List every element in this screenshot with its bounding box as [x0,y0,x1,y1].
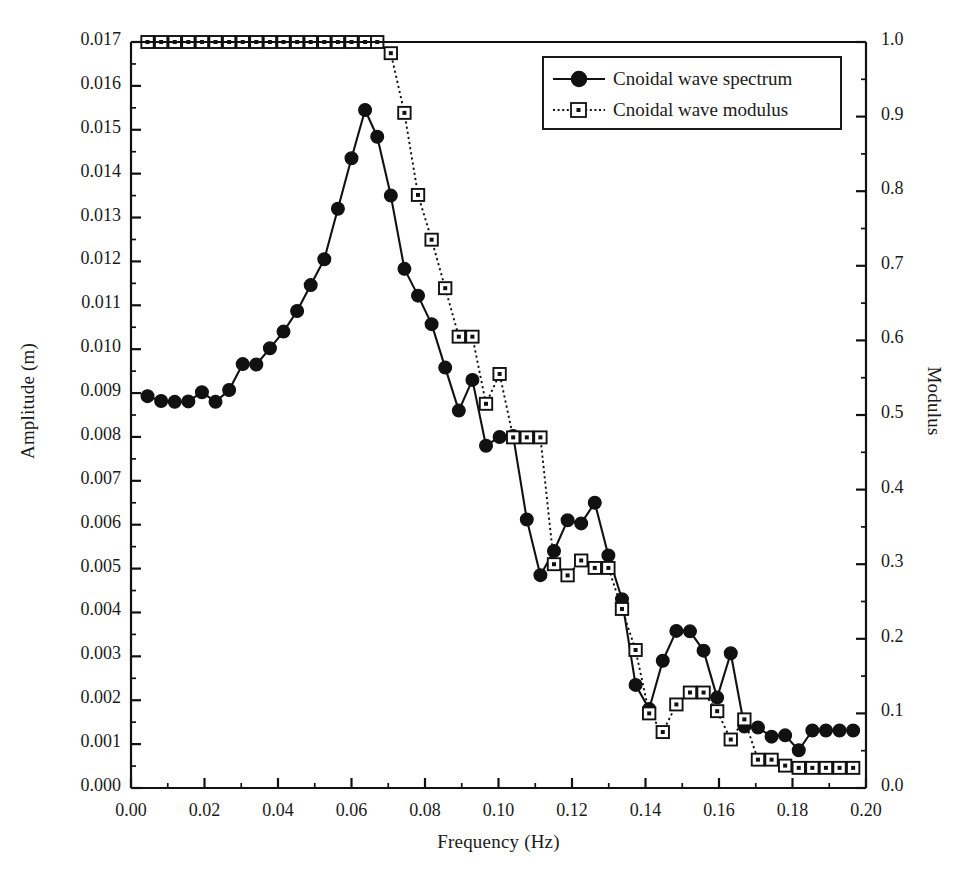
data-point-spectrum [277,325,290,338]
plot-frame [131,42,866,788]
data-point-spectrum [452,404,465,417]
y-tick-label: 0.005 [45,556,121,577]
data-point-spectrum [534,569,547,582]
data-point-spectrum [425,318,438,331]
data-point-modulus-center [824,766,828,770]
y-tick-label: 0.000 [45,775,121,796]
legend-marker-open-square [552,100,606,120]
data-point-modulus-center [552,562,556,566]
y-tick-label: 0.006 [45,512,121,533]
data-point-spectrum [250,358,263,371]
data-point-modulus-center [729,738,733,742]
y-tick-label: 0.002 [45,687,121,708]
data-point-spectrum [236,358,249,371]
data-point-spectrum [520,513,533,526]
data-point-spectrum [711,691,724,704]
data-point-spectrum [656,654,669,667]
y2-tick-label: 1.0 [881,29,931,50]
x-tick-label: 0.12 [538,800,606,821]
chart-legend: Cnoidal wave spectrum Cnoidal wave modul… [542,56,842,130]
data-point-modulus-center [525,435,529,439]
x-tick-label: 0.06 [318,800,386,821]
data-point-modulus-center [688,691,692,695]
y-tick-label: 0.009 [45,380,121,401]
x-axis-title: Frequency (Hz) [131,831,866,853]
legend-marker-filled-circle [552,69,606,89]
legend-item-spectrum: Cnoidal wave spectrum [552,63,832,94]
y-tick-label: 0.003 [45,643,121,664]
y-tick-label: 0.014 [45,161,121,182]
data-point-spectrum [304,279,317,292]
x-tick-label: 0.18 [759,800,827,821]
data-point-spectrum [412,289,425,302]
legend-label-spectrum: Cnoidal wave spectrum [613,68,792,90]
x-tick-label: 0.04 [244,800,312,821]
y2-tick-label: 0.7 [881,253,931,274]
data-point-spectrum [264,342,277,355]
x-tick-label: 0.20 [832,800,900,821]
data-point-modulus-center [430,238,434,242]
data-point-spectrum [480,439,493,452]
y2-tick-label: 0.8 [881,178,931,199]
data-point-spectrum [318,253,331,266]
x-tick-label: 0.14 [612,800,680,821]
data-point-spectrum [384,189,397,202]
x-tick-label: 0.02 [171,800,239,821]
data-point-spectrum [629,678,642,691]
y2-tick-label: 0.3 [881,551,931,572]
data-point-spectrum [345,152,358,165]
y-tick-label: 0.015 [45,117,121,138]
data-point-modulus-center [402,111,406,115]
data-point-spectrum [168,395,181,408]
data-point-spectrum [155,395,168,408]
data-point-spectrum [792,744,805,757]
legend-label-modulus: Cnoidal wave modulus [613,99,788,121]
legend-item-modulus: Cnoidal wave modulus [552,94,832,125]
data-point-spectrum [182,395,195,408]
data-point-spectrum [820,724,833,737]
data-point-modulus-center [498,372,502,376]
y2-tick-label: 0.2 [881,626,931,647]
data-point-modulus-center [770,758,774,762]
data-point-spectrum [196,386,209,399]
plot-background [131,42,866,788]
data-point-spectrum [684,625,697,638]
data-point-modulus-center [416,193,420,197]
data-point-modulus-center [593,566,597,570]
data-point-modulus-center [756,758,760,762]
data-point-spectrum [670,625,683,638]
data-point-modulus-center [457,335,461,339]
y2-tick-label: 0.4 [881,477,931,498]
y-tick-label: 0.007 [45,468,121,489]
x-tick-label: 0.00 [97,800,165,821]
data-point-spectrum [561,514,574,527]
data-point-spectrum [806,724,819,737]
data-point-modulus-center [797,766,801,770]
y-tick-label: 0.011 [45,292,121,313]
data-point-modulus-center [742,717,746,721]
y2-tick-label: 0.5 [881,402,931,423]
data-point-modulus-center [783,764,787,768]
data-point-modulus-center [389,51,393,55]
data-point-modulus-center [484,402,488,406]
data-point-spectrum [765,730,778,743]
data-point-spectrum [291,305,304,318]
y2-tick-label: 0.0 [881,775,931,796]
data-point-spectrum [724,647,737,660]
data-point-modulus-center [810,766,814,770]
data-point-modulus-center [661,730,665,734]
y2-tick-label: 0.1 [881,700,931,721]
data-point-spectrum [602,549,615,562]
data-point-spectrum [833,724,846,737]
y2-tick-label: 0.6 [881,327,931,348]
data-point-spectrum [359,104,372,117]
y-tick-label: 0.004 [45,599,121,620]
data-point-spectrum [697,644,710,657]
y-axis-title: Amplitude (m) [17,321,39,481]
data-point-spectrum [466,373,479,386]
y-tick-label: 0.016 [45,73,121,94]
data-point-spectrum [439,361,452,374]
y-tick-label: 0.008 [45,424,121,445]
data-point-spectrum [493,431,506,444]
x-tick-label: 0.10 [465,800,533,821]
